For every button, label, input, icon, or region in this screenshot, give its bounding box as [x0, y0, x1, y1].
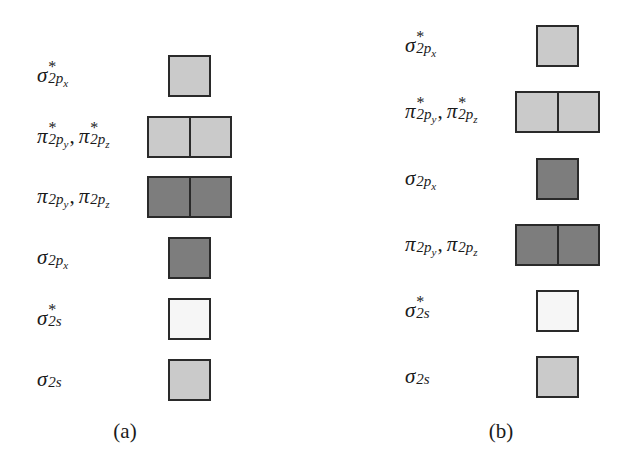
orbital-label: π2py,π2pz	[405, 234, 477, 255]
orbital-label: σ2s	[405, 366, 430, 387]
orbital-row-pi-star-2p: π*2py,π*2pz	[0, 91, 618, 133]
orbital-box-light-double	[515, 91, 600, 133]
orbital-row-sigma-2s: σ2s	[0, 356, 618, 398]
orbital-label: σ*2s	[405, 300, 430, 321]
panel-caption-b: (b)	[471, 419, 531, 444]
orbital-box-dark-double	[515, 224, 600, 266]
orbital-row-sigma-star-2px: σ*2px	[0, 25, 618, 67]
orbital-label: π*2py,π*2pz	[405, 101, 477, 122]
orbital-box-white	[536, 290, 579, 332]
orbital-box-light	[536, 25, 579, 67]
panel-b: σ*2px π*2py,π*2pz σ2px π2py,π2pz σ*2s σ2…	[0, 0, 618, 461]
orbital-row-pi-2p: π2py,π2pz	[0, 224, 618, 266]
orbital-box-dark	[536, 158, 579, 200]
orbital-row-sigma-star-2s: σ*2s	[0, 290, 618, 332]
orbital-label: σ2px	[405, 168, 436, 189]
orbital-row-sigma-2px: σ2px	[0, 158, 618, 200]
orbital-box-light	[536, 356, 579, 398]
orbital-label: σ*2px	[405, 35, 436, 56]
